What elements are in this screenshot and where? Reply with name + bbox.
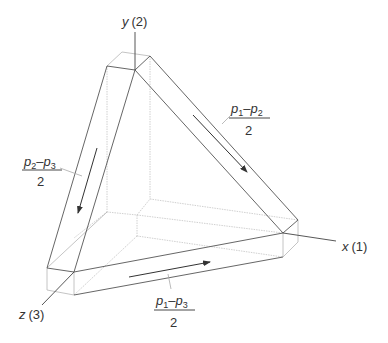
arrow-left-icon	[78, 148, 97, 213]
svg-text:2: 2	[245, 123, 252, 138]
axes	[42, 32, 336, 305]
diagram-canvas: y(2) x(1) z(3) p2–p3 2 p1–p2 2 p1–p3 2	[0, 0, 388, 343]
svg-text:p1–p2: p1–p2	[230, 101, 263, 118]
shear-arrows	[78, 115, 247, 277]
shear-label-p2-p3: p2–p3 2	[22, 154, 62, 189]
svg-text:2: 2	[37, 174, 44, 189]
prism-diagram: y(2) x(1) z(3) p2–p3 2 p1–p2 2 p1–p3 2	[0, 0, 388, 343]
x-axis-label: x(1)	[341, 239, 367, 254]
x-axis-line	[283, 233, 336, 241]
arrow-bottom-icon	[129, 262, 210, 277]
y-axis-label: y(2)	[121, 14, 147, 29]
z-axis-label: z(3)	[18, 307, 44, 322]
hidden-edges	[74, 56, 298, 295]
light-edges	[47, 52, 298, 295]
shear-label-p1-p3: p1–p3 2	[154, 293, 195, 330]
shear-label-p1-p2: p1–p2 2	[229, 101, 270, 138]
svg-text:2: 2	[170, 315, 177, 330]
svg-text:p2–p3: p2–p3	[23, 154, 56, 171]
svg-text:p1–p3: p1–p3	[155, 293, 188, 310]
prism-edges	[47, 56, 298, 295]
